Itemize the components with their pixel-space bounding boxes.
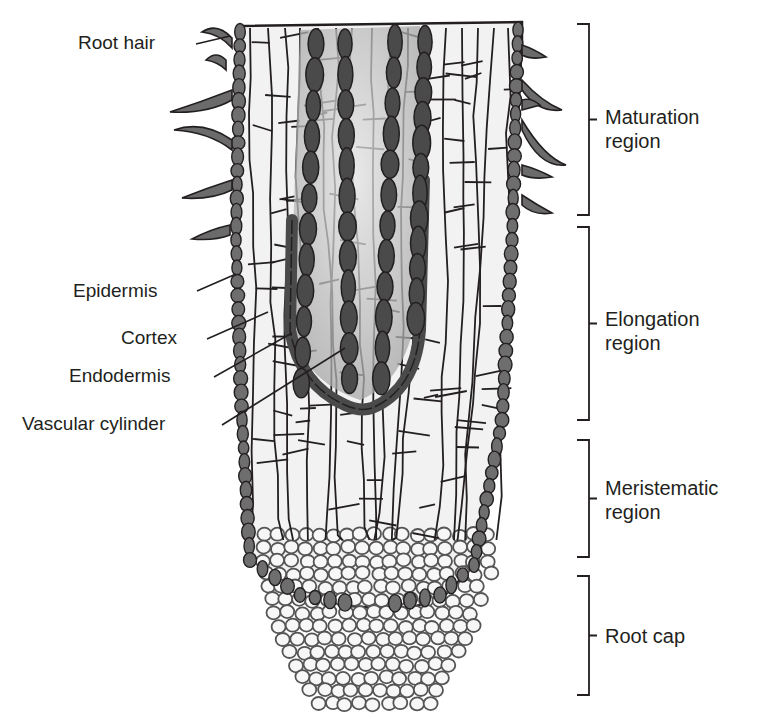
xylem-cell — [381, 150, 399, 178]
region-name: Meristematic — [605, 476, 718, 500]
epidermis-cell — [231, 288, 245, 302]
root-cap-cell — [352, 696, 366, 709]
root-cap-cell — [453, 620, 467, 633]
root-cap-cell — [366, 645, 380, 658]
cell-wall — [300, 408, 316, 409]
root-cap-cell — [358, 580, 372, 593]
epidermis-cell — [512, 51, 522, 65]
region-suffix: region — [605, 500, 718, 524]
label-vascular-cylinder: Vascular cylinder — [22, 413, 165, 435]
root-cap-cell — [332, 632, 346, 645]
root-cap-cell — [325, 645, 339, 658]
cell-wall — [457, 447, 480, 448]
region-suffix: region — [605, 129, 700, 153]
root-cap-cell — [314, 569, 328, 582]
root-cap-cell — [299, 528, 313, 541]
xylem-cell — [386, 57, 401, 88]
root-cap-cell — [458, 632, 472, 645]
root-cap-cell — [270, 554, 284, 567]
epidermis-cell — [231, 275, 244, 289]
root-cap-cell — [467, 619, 481, 632]
root-cap-cell — [470, 580, 484, 593]
epidermis-cell — [257, 561, 268, 577]
root-cap-cell — [290, 633, 304, 646]
root-cap-cell — [484, 567, 498, 580]
xylem-cell — [302, 184, 317, 212]
root-cap-cell — [313, 620, 327, 633]
root-cap-cell — [438, 645, 452, 658]
root-cap-cell — [282, 645, 296, 658]
root-cap-cell — [284, 540, 298, 553]
cell-wall — [274, 434, 305, 435]
root-cap-cell — [369, 542, 383, 555]
region-name: Root cap — [605, 624, 685, 648]
root-cap-cell — [397, 553, 411, 566]
root-cap-cell — [305, 633, 319, 646]
root-cap-cell — [424, 554, 438, 567]
epidermis-cell — [338, 594, 352, 611]
root-cap-cell — [299, 619, 313, 632]
root-cap-cell — [365, 698, 379, 711]
root-cap-cell — [435, 607, 449, 620]
root-cap-cell — [328, 620, 342, 633]
leader-epidermis — [197, 274, 236, 291]
root-cap-cell — [438, 542, 452, 555]
label-root-cap: Root cap — [605, 624, 685, 648]
epidermis-cell — [507, 219, 518, 234]
root-cap-cell — [336, 672, 350, 685]
root-cap-cell — [343, 555, 357, 568]
epidermis-cell — [510, 65, 523, 80]
root-cap-cell — [394, 645, 408, 658]
root-cap-cell — [460, 594, 474, 607]
epidermis-cell — [508, 134, 521, 150]
root-cap-cell — [331, 658, 345, 671]
epidermis-cell — [244, 553, 257, 568]
root-cap-cell — [385, 567, 399, 580]
xylem-cell — [308, 29, 324, 59]
root-cap-cell — [351, 645, 365, 658]
root-cap-cell — [435, 671, 449, 684]
root-cap-cell — [312, 697, 326, 710]
xylem-cell — [341, 270, 355, 305]
root-cap-cell — [414, 683, 428, 696]
root-cap-cell — [474, 593, 488, 606]
cell-wall — [252, 42, 270, 43]
root-cap-cell — [431, 631, 445, 644]
root-cap-cell — [373, 684, 387, 697]
root-cap-cell — [415, 660, 429, 673]
epidermis-cell — [486, 466, 498, 480]
root-cap-cell — [257, 528, 271, 541]
root-cap-cell — [295, 670, 309, 683]
xylem-cell — [339, 178, 355, 214]
root-cap-cell — [393, 696, 407, 709]
root-cap-cell — [272, 620, 286, 633]
epidermis-cell — [234, 384, 248, 400]
xylem-cell — [297, 307, 312, 337]
root-cap-cell — [342, 619, 356, 632]
epidermis-cell — [233, 121, 244, 137]
region-suffix: region — [605, 331, 700, 355]
root-cap-cell — [313, 529, 327, 542]
root-cap-cell — [355, 541, 369, 554]
root-cap-cell — [286, 619, 300, 632]
root-cap-cell — [318, 632, 332, 645]
root-cap-cell — [438, 555, 452, 568]
root-cap-cell — [386, 581, 400, 594]
xylem-cell — [304, 120, 319, 153]
root-cap-cell — [300, 567, 314, 580]
root-cap-cell — [453, 541, 467, 554]
root-cap-cell — [424, 697, 438, 710]
root-hair — [170, 90, 232, 112]
epidermis-cell — [495, 413, 509, 428]
root-hair — [522, 120, 566, 165]
root-cap-cell — [337, 698, 351, 711]
root-hair — [182, 180, 232, 198]
region-name: Maturation — [605, 105, 700, 129]
root-hair — [522, 165, 552, 178]
xylem-cell — [297, 275, 314, 307]
epidermis-cell — [309, 591, 321, 605]
epidermis-cell — [235, 24, 246, 41]
xylem-cell — [295, 337, 310, 367]
root-cap-cell — [420, 605, 434, 618]
xylem-cell — [373, 362, 390, 395]
